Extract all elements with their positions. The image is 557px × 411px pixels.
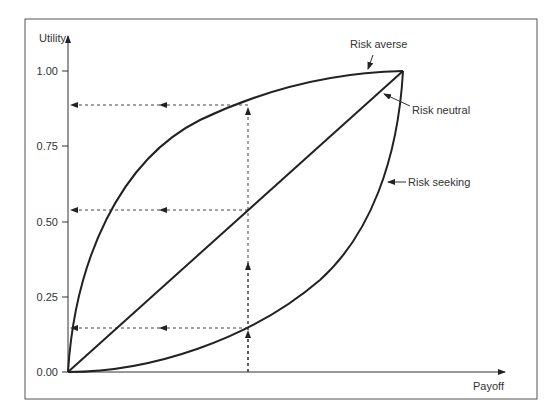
tick-1-00: 1.00 (37, 65, 58, 77)
y-axis-label: Utility (39, 32, 66, 44)
tick-0-00: 0.00 (37, 366, 58, 378)
risk-averse-label: Risk averse (350, 38, 407, 50)
x-axis-label: Payoff (473, 380, 505, 392)
y-ticks (62, 71, 68, 372)
risk-seeking-label: Risk seeking (408, 176, 470, 188)
tick-0-50: 0.50 (37, 216, 58, 228)
tick-0-75: 0.75 (37, 140, 58, 152)
risk-averse-pointer (368, 55, 373, 69)
risk-neutral-line (68, 71, 403, 372)
tick-0-25: 0.25 (37, 291, 58, 303)
risk-neutral-pointer (384, 94, 410, 106)
utility-chart: 1.00 0.75 0.50 0.25 0.00 Utility Payoff … (0, 0, 557, 411)
risk-neutral-label: Risk neutral (412, 104, 470, 116)
